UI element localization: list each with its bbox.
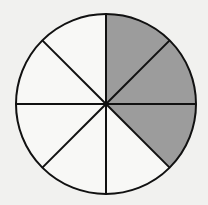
center-point: [104, 102, 108, 106]
fraction-circle-diagram: [0, 0, 208, 205]
